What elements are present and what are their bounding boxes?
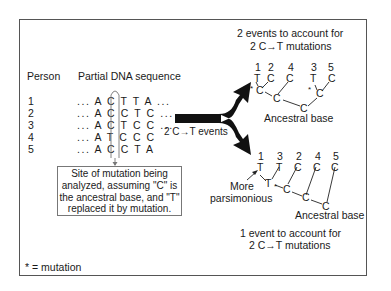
- site-highlight: [111, 91, 119, 158]
- leaf-base: C: [313, 161, 321, 173]
- internal-node: C: [316, 87, 324, 99]
- mutation-marker: *: [250, 83, 253, 95]
- branch-arrow-icon: [175, 82, 251, 155]
- leaf-base: C: [331, 161, 339, 173]
- bottom-caption-line2: 2 C→T mutations: [249, 239, 331, 251]
- leaf-base: T: [257, 161, 263, 173]
- top-caption-line1: 2 events to account for: [237, 27, 343, 39]
- bottom-caption-line1: 1 event to account for: [240, 227, 341, 239]
- top-caption-line2: 2 C→T mutations: [250, 40, 332, 52]
- leaf-base: T: [254, 72, 260, 84]
- internal-node: C: [273, 92, 281, 104]
- diagram-graphics: [0, 0, 391, 291]
- internal-node-mutated: T: [265, 177, 271, 189]
- leaf-base: C: [286, 72, 294, 84]
- leaf-base: T: [310, 72, 316, 84]
- leaf-base: C: [328, 72, 336, 84]
- mutation-marker: *: [308, 84, 311, 96]
- top-ancestral-label: Ancestral base: [264, 112, 333, 124]
- internal-node: C: [302, 191, 310, 203]
- mutation-marker: *: [274, 181, 277, 193]
- parsimonious-note-line2: parsimonious: [210, 192, 272, 204]
- leaf-base: C: [267, 72, 275, 84]
- bottom-ancestral-label: Ancestral base: [295, 209, 364, 221]
- internal-node: C: [256, 84, 264, 96]
- leaf-base: C: [294, 161, 302, 173]
- parsimonious-note-line1: More: [230, 180, 254, 192]
- leaf-base: T: [276, 161, 282, 173]
- internal-node: C: [283, 183, 291, 195]
- arrow-label: 2 C→T events: [164, 126, 228, 138]
